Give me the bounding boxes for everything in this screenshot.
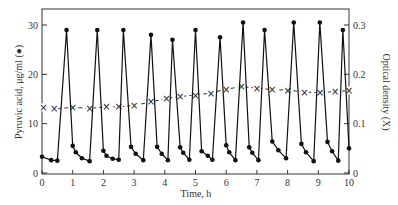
dot-marker-icon xyxy=(205,153,210,158)
x-marker-icon: × xyxy=(115,101,123,112)
x-marker-icon: × xyxy=(331,86,339,97)
dot-marker-icon xyxy=(341,28,346,33)
dot-marker-icon xyxy=(87,159,92,164)
chart: 012345678910 0102030 00.10.20.3 ××××××××… xyxy=(0,0,398,205)
x-marker-icon: × xyxy=(69,102,77,113)
x-marker-icon: × xyxy=(253,83,261,94)
x-tick-label: 3 xyxy=(132,177,137,188)
y2-tick-label: 0.2 xyxy=(353,69,366,80)
dot-marker-icon xyxy=(318,20,323,25)
dot-marker-icon xyxy=(159,151,164,156)
dot-marker-icon xyxy=(178,145,183,150)
x-axis-ticks: 012345678910 xyxy=(40,170,355,188)
x-tick-label: 9 xyxy=(316,177,321,188)
dot-marker-icon xyxy=(49,158,54,163)
dot-marker-icon xyxy=(121,28,126,33)
y2-axis-ticks: 00.10.20.3 xyxy=(344,20,366,179)
dot-marker-icon xyxy=(336,158,341,163)
dot-marker-icon xyxy=(304,150,309,155)
dot-marker-icon xyxy=(224,143,229,148)
y-tick-label: 30 xyxy=(28,20,38,31)
y2-tick-label: 0.3 xyxy=(353,20,366,31)
dot-marker-icon xyxy=(330,149,335,154)
dot-marker-icon xyxy=(149,33,154,38)
x-marker-icon: × xyxy=(50,103,58,114)
dot-marker-icon xyxy=(210,157,215,162)
dot-marker-icon xyxy=(166,158,171,163)
dot-marker-icon xyxy=(55,158,60,163)
x-marker-icon: × xyxy=(39,102,47,113)
dot-marker-icon xyxy=(325,140,330,145)
dot-marker-icon xyxy=(347,146,352,151)
x-tick-label: 7 xyxy=(254,177,259,188)
dot-marker-icon xyxy=(218,35,223,40)
x-tick-label: 5 xyxy=(193,177,198,188)
dot-marker-icon xyxy=(199,149,204,154)
dot-marker-icon xyxy=(270,139,275,144)
dot-marker-icon xyxy=(256,158,261,163)
dot-marker-icon xyxy=(40,154,45,159)
dot-marker-icon xyxy=(284,156,289,161)
dot-marker-icon xyxy=(133,151,138,156)
dot-marker-icon xyxy=(73,150,78,155)
dot-marker-icon xyxy=(250,150,255,155)
y-tick-label: 10 xyxy=(28,118,38,129)
optical-density-series: ××××××××××××××××××××× xyxy=(39,81,353,114)
y2-tick-label: 0.1 xyxy=(353,118,366,129)
x-marker-icon: × xyxy=(207,88,215,99)
x-marker-icon: × xyxy=(102,101,110,112)
x-marker-icon: × xyxy=(237,81,245,92)
dot-marker-icon xyxy=(155,145,160,150)
dot-marker-icon xyxy=(80,156,85,161)
dot-marker-icon xyxy=(95,28,100,33)
x-tick-label: 6 xyxy=(224,177,229,188)
dot-marker-icon xyxy=(187,157,192,162)
dot-marker-icon xyxy=(104,153,109,158)
y-axis-title: Pyruvic acid, μg/ml (●) xyxy=(13,45,25,139)
dot-marker-icon xyxy=(141,158,146,163)
dot-marker-icon xyxy=(299,142,304,147)
dot-marker-icon xyxy=(193,28,198,33)
dot-marker-icon xyxy=(116,157,121,162)
dot-marker-icon xyxy=(170,38,175,43)
x-marker-icon: × xyxy=(162,93,170,104)
dot-marker-icon xyxy=(291,20,296,25)
dot-marker-icon xyxy=(181,150,186,155)
dot-marker-icon xyxy=(276,148,281,153)
dot-marker-icon xyxy=(110,156,115,161)
x-tick-label: 8 xyxy=(285,177,290,188)
x-marker-icon: × xyxy=(130,100,138,111)
dot-marker-icon xyxy=(241,20,246,25)
dot-marker-icon xyxy=(233,158,238,163)
y-tick-label: 0 xyxy=(33,168,38,179)
dot-marker-icon xyxy=(227,150,232,155)
dot-marker-icon xyxy=(101,149,106,154)
dot-marker-icon xyxy=(311,159,316,164)
y-tick-label: 20 xyxy=(28,69,38,80)
dot-marker-icon xyxy=(129,145,134,150)
y2-axis-title: Optical density (X) xyxy=(380,53,392,130)
dot-marker-icon xyxy=(262,28,267,33)
dot-marker-icon xyxy=(64,28,69,33)
x-tick-label: 4 xyxy=(162,177,167,188)
dot-marker-icon xyxy=(247,145,252,150)
x-tick-label: 2 xyxy=(101,177,106,188)
x-marker-icon: × xyxy=(300,87,308,98)
y2-tick-label: 0 xyxy=(353,168,358,179)
x-tick-label: 0 xyxy=(40,177,45,188)
x-axis-title: Time, h xyxy=(181,188,212,199)
dot-marker-icon xyxy=(70,144,75,149)
x-tick-label: 1 xyxy=(70,177,75,188)
y-axis-ticks: 0102030 xyxy=(28,20,47,179)
x-tick-label: 10 xyxy=(344,177,354,188)
